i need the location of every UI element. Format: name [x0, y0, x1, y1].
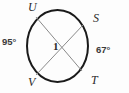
geometry-figure: U S V T 95° 67° 1 — [0, 0, 129, 93]
arc-measure-left: 95° — [2, 37, 16, 47]
chord-sv — [36, 25, 83, 75]
vertex-label-s: S — [93, 12, 99, 24]
angle-number-label: 1 — [53, 41, 59, 52]
chord-ut — [36, 17, 82, 71]
vertex-label-t: T — [91, 74, 98, 86]
arc-measure-right: 67° — [96, 45, 110, 55]
vertex-label-v: V — [28, 76, 35, 88]
vertex-label-u: U — [28, 1, 37, 13]
